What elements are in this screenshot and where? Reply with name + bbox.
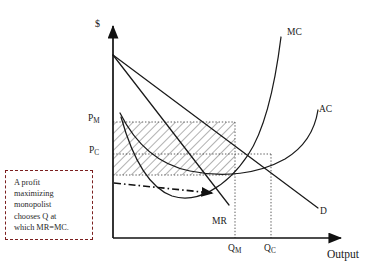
price-label-monopoly: PM bbox=[88, 113, 100, 125]
callout-line-5: which MR=MC. bbox=[14, 222, 86, 233]
curve-label-d: D bbox=[320, 206, 327, 216]
quantity-label-monopoly: QM bbox=[228, 243, 241, 255]
price-label-competitive: PC bbox=[89, 145, 99, 157]
curve-label-ac: AC bbox=[319, 104, 332, 114]
qm-subscript: M bbox=[235, 247, 241, 255]
callout-line-3: monopolist bbox=[14, 199, 86, 210]
curve-label-mr: MR bbox=[212, 216, 227, 226]
callout-line-1: A profit bbox=[14, 177, 86, 188]
callout-line-4: chooses Q at bbox=[14, 211, 86, 222]
qc-subscript: C bbox=[271, 247, 276, 255]
callout-line-2: maximizing bbox=[14, 188, 86, 199]
pc-subscript: C bbox=[94, 149, 99, 157]
y-axis-label: $ bbox=[95, 18, 100, 29]
pm-subscript: M bbox=[93, 117, 99, 125]
qm-base: Q bbox=[228, 243, 235, 253]
callout-note: A profit maximizing monopolist chooses Q… bbox=[5, 170, 93, 240]
curve-label-mc: MC bbox=[287, 27, 302, 37]
qc-base: Q bbox=[264, 243, 271, 253]
x-axis-label: Output bbox=[327, 248, 359, 260]
quantity-label-competitive: QC bbox=[264, 243, 276, 255]
